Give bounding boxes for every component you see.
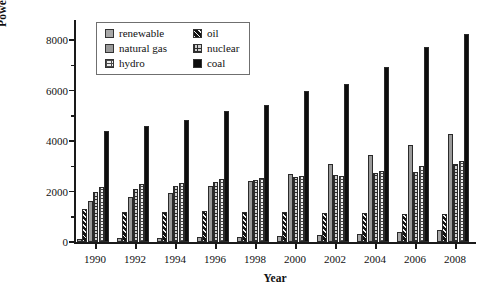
bar-natural_gas xyxy=(328,164,333,242)
bar-hydro xyxy=(339,176,344,242)
bar-hydro xyxy=(419,166,424,242)
x-tick-label: 1990 xyxy=(84,253,106,265)
bar-oil xyxy=(122,212,127,242)
bar-oil xyxy=(442,214,447,242)
bar-nuclear xyxy=(253,180,258,242)
y-axis-title: Power production /TWh xyxy=(0,0,8,40)
chart-legend: renewableoilnatural gasnuclearhydrocoal xyxy=(96,22,250,75)
bar-hydro xyxy=(259,178,264,242)
bar-natural_gas xyxy=(168,193,173,242)
bar-nuclear xyxy=(373,173,378,242)
legend-label: coal xyxy=(207,58,225,69)
x-tick-label: 2008 xyxy=(444,253,466,265)
bar-natural_gas xyxy=(408,145,413,242)
bar-oil xyxy=(202,211,207,242)
x-tick-label: 2006 xyxy=(404,253,426,265)
legend-label: natural gas xyxy=(119,43,167,54)
bar-natural_gas xyxy=(448,134,453,242)
legend-swatch-natural_gas-icon xyxy=(105,44,114,53)
legend-swatch-nuclear-icon xyxy=(193,44,202,53)
bar-coal xyxy=(224,111,229,242)
x-tick-label: 2002 xyxy=(324,253,346,265)
legend-label: nuclear xyxy=(207,43,239,54)
legend-entry-nuclear: nuclear xyxy=(193,43,239,54)
bar-coal xyxy=(384,67,389,242)
bar-oil xyxy=(162,212,167,242)
bar-natural_gas xyxy=(288,174,293,242)
legend-entry-coal: coal xyxy=(193,58,239,69)
legend-entry-hydro: hydro xyxy=(105,58,167,69)
bar-oil xyxy=(362,213,367,242)
legend-entry-renewable: renewable xyxy=(105,28,167,39)
bar-group xyxy=(277,91,310,242)
legend-swatch-renewable-icon xyxy=(105,29,114,38)
legend-label: renewable xyxy=(119,28,164,39)
x-tick-label: 1998 xyxy=(244,253,266,265)
y-tick-label: 0 xyxy=(30,236,68,248)
bar-hydro xyxy=(299,176,304,242)
bar-group xyxy=(77,131,110,242)
bar-group xyxy=(157,120,190,242)
bar-group xyxy=(237,105,270,242)
x-tick xyxy=(175,244,177,249)
bar-renewable xyxy=(237,237,242,242)
bar-oil xyxy=(322,213,327,242)
bar-group xyxy=(117,126,150,242)
legend-swatch-coal-icon xyxy=(193,59,202,68)
bar-oil xyxy=(242,212,247,242)
x-tick-label: 1992 xyxy=(124,253,146,265)
bar-coal xyxy=(184,120,189,242)
bar-group xyxy=(197,111,230,242)
bar-natural_gas xyxy=(88,201,93,242)
bar-nuclear xyxy=(413,172,418,242)
bar-hydro xyxy=(139,184,144,242)
bar-renewable xyxy=(117,238,122,242)
y-tick-label: 2000 xyxy=(30,186,68,198)
bar-coal xyxy=(464,34,469,242)
x-tick xyxy=(135,244,137,249)
x-tick-label: 2004 xyxy=(364,253,386,265)
x-axis-title: Year xyxy=(75,272,475,284)
y-tick-label: 8000 xyxy=(30,34,68,46)
y-tick-label: 4000 xyxy=(30,135,68,147)
legend-swatch-hydro-icon xyxy=(105,59,114,68)
x-tick-label: 2000 xyxy=(284,253,306,265)
bar-group xyxy=(357,67,390,242)
bar-nuclear xyxy=(453,164,458,242)
x-tick xyxy=(375,244,377,249)
bar-renewable xyxy=(397,232,402,242)
bar-nuclear xyxy=(213,182,218,242)
bar-group xyxy=(437,34,470,242)
bar-hydro xyxy=(379,171,384,242)
bar-renewable xyxy=(157,238,162,242)
bar-hydro xyxy=(179,183,184,242)
bar-renewable xyxy=(277,236,282,242)
bar-coal xyxy=(144,126,149,242)
bar-hydro xyxy=(99,187,104,242)
bar-nuclear xyxy=(173,186,178,242)
bar-renewable xyxy=(197,237,202,242)
bar-coal xyxy=(344,84,349,242)
bar-oil xyxy=(82,209,87,242)
bar-group xyxy=(317,84,350,242)
x-tick xyxy=(455,244,457,249)
bar-natural_gas xyxy=(208,186,213,242)
bar-renewable xyxy=(77,239,82,242)
legend-label: oil xyxy=(207,28,219,39)
bar-renewable xyxy=(317,235,322,242)
x-tick xyxy=(95,244,97,249)
bar-coal xyxy=(424,47,429,242)
bar-oil xyxy=(282,212,287,242)
x-tick xyxy=(255,244,257,249)
bar-coal xyxy=(104,131,109,242)
bar-renewable xyxy=(437,230,442,242)
legend-entry-natural_gas: natural gas xyxy=(105,43,167,54)
bar-renewable xyxy=(357,234,362,242)
x-tick xyxy=(335,244,337,249)
x-tick xyxy=(295,244,297,249)
legend-entry-oil: oil xyxy=(193,28,239,39)
x-tick xyxy=(215,244,217,249)
bar-nuclear xyxy=(133,189,138,242)
legend-label: hydro xyxy=(119,58,145,69)
legend-swatch-oil-icon xyxy=(193,29,202,38)
